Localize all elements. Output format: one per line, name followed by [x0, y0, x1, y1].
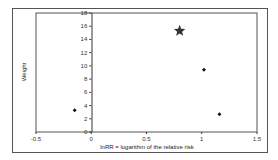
x-tick-label: 0.5	[142, 136, 151, 142]
data-points	[73, 25, 222, 116]
x-axis-ticks: -0.500.511.5	[31, 132, 262, 142]
star-marker	[174, 25, 185, 36]
y-tick-label: 6	[84, 89, 88, 95]
y-tick-label: 18	[81, 10, 88, 16]
x-axis-label: lnRR = logarithm of the relative risk	[100, 144, 194, 150]
y-tick-label: 4	[84, 103, 88, 109]
y-tick-label: 16	[81, 23, 88, 29]
y-tick-label: 8	[84, 76, 88, 82]
y-tick-label: 12	[81, 50, 88, 56]
x-tick-label: -0.5	[31, 136, 42, 142]
y-axis-ticks: 024681012141618	[81, 10, 92, 135]
y-axis-label: Weight	[21, 63, 27, 82]
y-tick-label: 2	[84, 116, 88, 122]
diamond-marker	[217, 112, 221, 116]
plot-area	[36, 13, 257, 132]
y-tick-label: 14	[81, 36, 88, 42]
y-tick-label: 10	[81, 63, 88, 69]
x-tick-label: 0	[90, 136, 94, 142]
scatter-plot: 024681012141618 -0.500.511.5	[0, 0, 278, 160]
diamond-marker	[73, 108, 77, 112]
x-tick-label: 1.5	[253, 136, 262, 142]
x-tick-label: 1	[200, 136, 204, 142]
diamond-marker	[202, 68, 206, 72]
